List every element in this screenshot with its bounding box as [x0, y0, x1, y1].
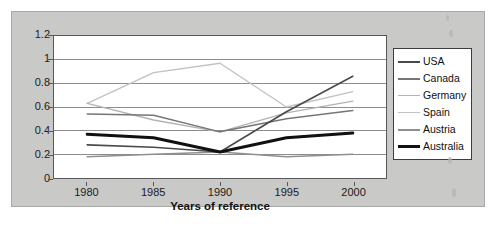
x-axis-title: Years of reference — [53, 183, 387, 212]
legend-label: Austria — [423, 124, 456, 135]
chart-legend: USACanadaGermanySpainAustriaAustralia — [393, 48, 472, 160]
plot-area — [53, 35, 387, 179]
series-line-germany — [87, 101, 353, 132]
scan-speck — [446, 15, 449, 21]
legend-swatch-icon — [398, 57, 420, 67]
y-axis-tick-label: 1 — [16, 53, 50, 64]
y-axis-tick-label: 0.8 — [16, 77, 50, 88]
chart-figure: 00.20.40.60.811.2 19801985199019952000 Y… — [11, 11, 485, 207]
y-axis-tick-label: 0.4 — [16, 125, 50, 136]
legend-item-spain[interactable]: Spain — [398, 104, 468, 121]
legend-item-usa[interactable]: USA — [398, 53, 468, 70]
legend-label: Australia — [423, 141, 464, 152]
scan-speck — [452, 188, 456, 197]
legend-swatch-icon — [398, 91, 420, 101]
y-axis: 00.20.40.60.811.2 — [12, 35, 50, 179]
legend-item-canada[interactable]: Canada — [398, 70, 468, 87]
series-line-spain — [87, 63, 353, 107]
legend-label: Canada — [423, 73, 460, 84]
scan-speck — [448, 157, 452, 164]
legend-swatch-icon — [398, 125, 420, 135]
y-axis-tick-label: 0 — [16, 173, 50, 184]
legend-item-germany[interactable]: Germany — [398, 87, 468, 104]
legend-label: Germany — [423, 90, 466, 101]
series-line-australia — [87, 133, 353, 152]
legend-label: USA — [423, 56, 445, 67]
legend-label: Spain — [423, 107, 450, 118]
legend-item-australia[interactable]: Australia — [398, 138, 468, 155]
y-axis-tick-mark — [48, 179, 53, 180]
y-axis-tick-label: 0.6 — [16, 101, 50, 112]
y-axis-tick-label: 0.2 — [16, 149, 50, 160]
legend-swatch-icon — [398, 142, 420, 152]
y-axis-tick-label: 1.2 — [16, 29, 50, 40]
scan-speck — [449, 30, 453, 37]
legend-swatch-icon — [398, 108, 420, 118]
legend-item-austria[interactable]: Austria — [398, 121, 468, 138]
legend-swatch-icon — [398, 74, 420, 84]
line-chart-svg — [54, 36, 386, 178]
